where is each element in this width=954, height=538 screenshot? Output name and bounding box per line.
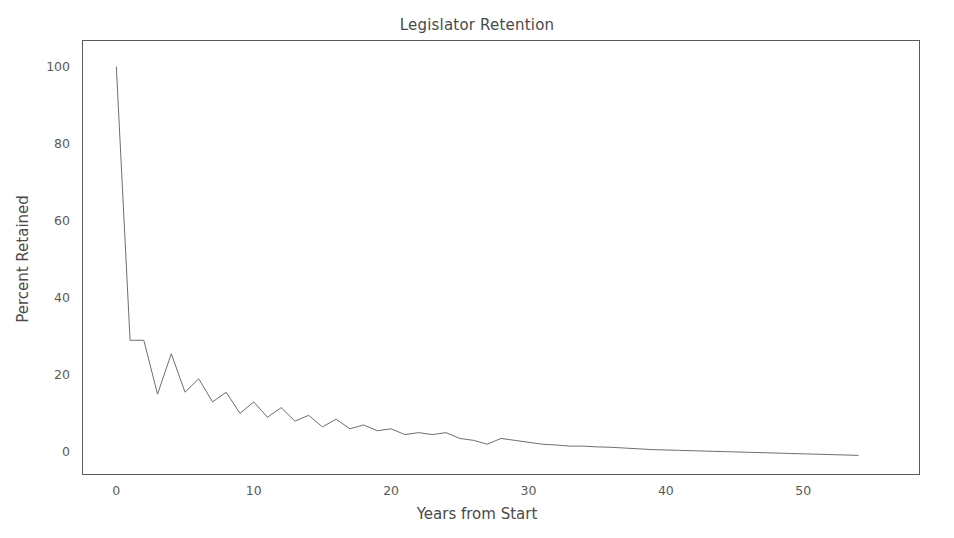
y-tick-label: 0 <box>30 444 70 459</box>
x-tick-label: 20 <box>371 483 411 498</box>
x-tick-label: 0 <box>96 483 136 498</box>
y-tick-label: 20 <box>30 367 70 382</box>
y-tick-label: 40 <box>30 290 70 305</box>
plot-area <box>82 40 920 475</box>
y-axis-label: Percent Retained <box>14 159 32 359</box>
y-tick-label: 100 <box>30 59 70 74</box>
y-tick-label: 60 <box>30 213 70 228</box>
chart-title: Legislator Retention <box>0 16 954 34</box>
x-tick-label: 10 <box>234 483 274 498</box>
axes-frame <box>83 41 920 475</box>
x-axis-label: Years from Start <box>0 505 954 523</box>
chart-figure: Legislator Retention 01020304050 0204060… <box>0 0 954 538</box>
y-tick-label: 80 <box>30 136 70 151</box>
plot-canvas <box>82 40 920 475</box>
x-tick-label: 40 <box>646 483 686 498</box>
x-tick-label: 30 <box>508 483 548 498</box>
x-tick-label: 50 <box>783 483 823 498</box>
